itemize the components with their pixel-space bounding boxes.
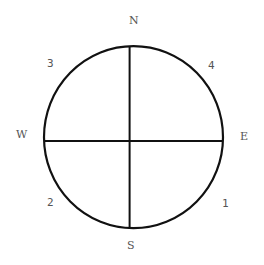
label-east: E [240, 131, 248, 142]
compass-diagram: N W E S 3 4 2 1 [0, 0, 264, 265]
compass-circle [44, 46, 223, 228]
label-quadrant-northwest: 3 [47, 58, 54, 69]
label-west: W [16, 129, 27, 140]
label-quadrant-southwest: 2 [47, 197, 54, 208]
label-south: S [127, 240, 135, 251]
compass-drawing [0, 0, 264, 265]
label-quadrant-northeast: 4 [208, 60, 215, 71]
label-quadrant-southeast: 1 [222, 198, 229, 209]
label-north: N [129, 15, 139, 26]
